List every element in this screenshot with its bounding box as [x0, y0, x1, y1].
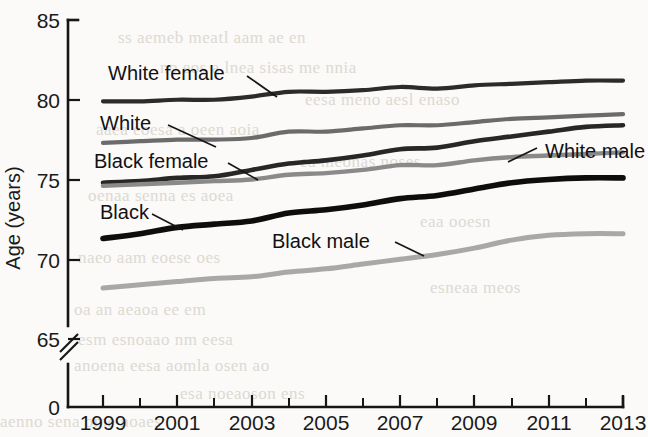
y-axis-break-icon: [60, 334, 78, 352]
x-tick-label-2011: 2011: [526, 411, 571, 434]
leader-black-male: [395, 242, 424, 256]
y-tick-label-65: 65: [37, 328, 60, 351]
y-tick-label-70: 70: [37, 249, 60, 272]
annotation-black-male: Black male: [272, 230, 370, 252]
series-layer: [103, 80, 623, 287]
y-tick-label-75: 75: [37, 169, 60, 192]
x-tick-label-2005: 2005: [303, 411, 350, 434]
x-tick-label-2007: 2007: [377, 411, 424, 434]
x-tick-label-2013: 2013: [600, 411, 647, 434]
y-axis-title: Age (years): [2, 166, 24, 269]
annotation-black: Black: [100, 201, 150, 223]
series-line-white: [103, 114, 623, 143]
y-tick-label-85: 85: [37, 9, 60, 32]
y-tick-label-80: 80: [37, 89, 60, 112]
x-axis-ticks: [103, 395, 623, 407]
chart-svg: 85 80 75 70 65 0 Age (years): [0, 0, 648, 437]
life-expectancy-line-chart: ss aemeb meatl aam ae en no eos a lnea s…: [0, 0, 648, 437]
y-axis-break-icon: [60, 342, 78, 360]
x-tick-label-1999: 1999: [80, 411, 127, 434]
annotation-white-male: White male: [545, 140, 645, 162]
x-tick-label-2009: 2009: [451, 411, 498, 434]
leader-white: [168, 125, 216, 147]
y-tick-label-0: 0: [48, 396, 60, 419]
annotation-black-female: Black female: [94, 150, 209, 172]
annotation-white-female: White female: [108, 62, 225, 84]
x-tick-label-2003: 2003: [229, 411, 276, 434]
annotation-white: White: [100, 112, 151, 134]
x-tick-label-2001: 2001: [154, 411, 201, 434]
